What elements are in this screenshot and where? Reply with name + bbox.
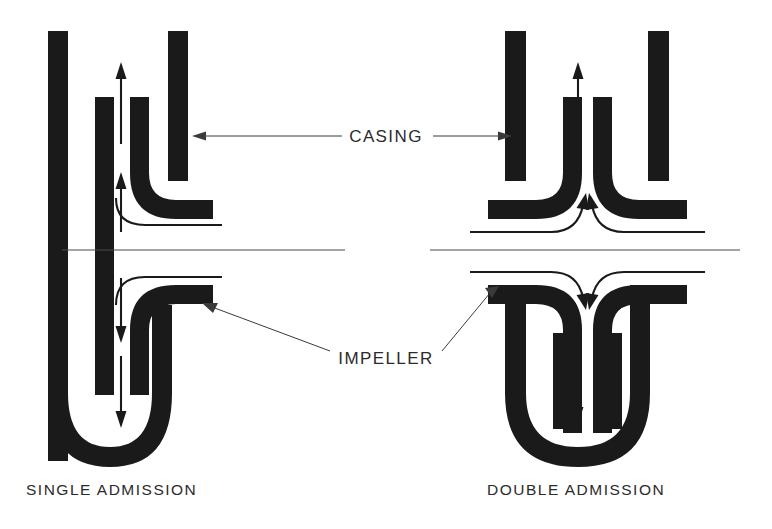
left-impeller-inner-vane — [95, 295, 114, 393]
impeller-label: IMPELLER — [338, 349, 433, 368]
impeller-diagram: CASING IMPELLER SINGLE ADMISSION DOUBLE … — [0, 0, 772, 529]
casing-label: CASING — [349, 127, 423, 146]
right-casing-outer-wall-2 — [648, 31, 669, 181]
left-casing-upper-right-wall — [168, 31, 188, 181]
caption-double-admission: DOUBLE ADMISSION — [487, 481, 665, 498]
right-casing-outer-wall — [505, 31, 526, 181]
figure-root: CASING IMPELLER SINGLE ADMISSION DOUBLE … — [0, 0, 772, 529]
caption-single-admission: SINGLE ADMISSION — [26, 481, 197, 498]
